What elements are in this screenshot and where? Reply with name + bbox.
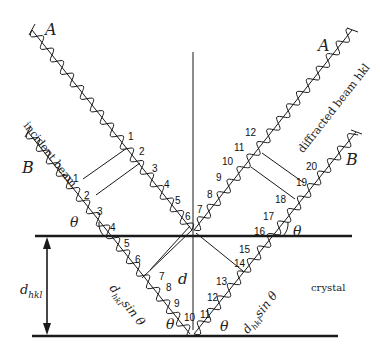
wave-count-a-out-10: 10 xyxy=(222,157,233,167)
wave-count-a-in-4: 4 xyxy=(164,180,170,190)
wave-count-b-out-20: 20 xyxy=(306,162,317,172)
wave-count-b-in-8: 8 xyxy=(166,283,172,293)
wave-count-b-in-7: 7 xyxy=(159,272,165,282)
d-hkl-subscript: hkl xyxy=(28,290,42,300)
wave-count-b-in-5: 5 xyxy=(124,239,130,249)
wave-count-b-in-3: 3 xyxy=(97,207,103,217)
d-center-label: d xyxy=(178,272,188,287)
wave-count-b-out-15: 15 xyxy=(239,245,250,255)
path-line-left-2 xyxy=(150,226,190,270)
wave-count-a-out-7: 7 xyxy=(197,205,203,215)
wave-count-b-out-11: 11 xyxy=(200,310,210,320)
wave-count-a-in-5: 5 xyxy=(175,196,181,206)
wave-count-a-in-3: 3 xyxy=(152,164,158,174)
wave-count-b-out-16: 16 xyxy=(254,227,265,237)
wave-count-b-out-18: 18 xyxy=(275,195,286,205)
wave-count-b-in-4: 4 xyxy=(110,223,116,233)
wave-count-b-out-19: 19 xyxy=(296,178,307,188)
wave-count-b-out-17: 17 xyxy=(263,212,274,222)
theta-arc-right-top xyxy=(283,222,288,236)
ray-b-diffracted-label: B xyxy=(346,152,358,168)
wave-count-a-out-12: 12 xyxy=(245,128,256,138)
wave-count-a-out-11: 11 xyxy=(234,143,244,153)
wave-count-a-in-2: 2 xyxy=(139,147,145,157)
wave-count-a-out-9: 9 xyxy=(216,173,222,183)
wavefront-incident-2 xyxy=(96,163,140,195)
wave-count-a-in-1: 1 xyxy=(128,132,134,142)
wave-count-b-in-6: 6 xyxy=(135,255,141,265)
wave-count-b-out-12: 12 xyxy=(207,293,218,303)
wave-count-a-out-8: 8 xyxy=(207,190,213,200)
ray-a-diffracted-label: A xyxy=(318,38,330,54)
theta-label-diffracted-bottom: θ xyxy=(220,319,228,333)
bragg-diffraction-diagram: A B A B incident beam diffracted beam hk… xyxy=(0,0,380,360)
wave-count-b-out-13: 13 xyxy=(216,277,227,287)
ray-b-incident-label: B xyxy=(22,160,34,176)
wave-count-b-in-1: 1 xyxy=(73,174,79,184)
wave-count-b-in-10: 10 xyxy=(184,313,195,323)
d-hkl-label: dhkl xyxy=(20,283,42,300)
wave-count-b-in-9: 9 xyxy=(174,299,180,309)
ray-a-end-tick xyxy=(347,28,358,32)
theta-label-incident-bottom: θ xyxy=(166,317,174,331)
wave-path xyxy=(30,30,193,230)
theta-label-diffracted-top: θ xyxy=(293,224,301,238)
wavefront-incident-1 xyxy=(83,148,127,179)
wave-count-a-in-6: 6 xyxy=(185,212,191,222)
crystal-label: crystal xyxy=(311,283,345,293)
ray-b-end-tick xyxy=(351,130,362,134)
arrow-head-down-icon xyxy=(43,323,51,335)
theta-label-incident-top: θ xyxy=(70,215,78,229)
arrow-head-up-icon xyxy=(43,237,51,249)
ray-a-incident-label: A xyxy=(45,22,57,38)
wave-count-b-in-2: 2 xyxy=(84,191,90,201)
wave-count-b-out-14: 14 xyxy=(234,259,245,269)
